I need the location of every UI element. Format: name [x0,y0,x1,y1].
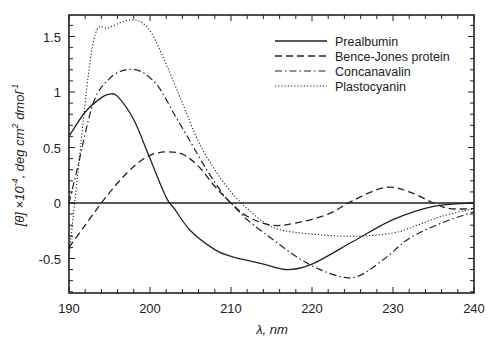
y-tick-label: 0 [54,196,61,211]
series-line-concanavalin [69,69,474,278]
tick-labels: 190200210220230240-0.500.511.5 [39,30,485,317]
x-axis-title: λ, nm [255,322,288,337]
y-axis-title: [θ] ×10-4, deg cm2 dmol-1 [10,84,27,228]
legend-label: Prealbumin [335,35,398,49]
legend-label: Concanavalin [335,65,411,79]
legend-label: Plastocyanin [335,80,406,94]
y-tick-label: 0.5 [43,141,61,156]
y-tick-label: 1.5 [43,30,61,45]
x-tick-label: 230 [382,301,404,316]
series-line-bence-jones-protein [69,152,474,248]
cd-spectra-chart: 190200210220230240-0.500.511.5 Prealbumi… [0,0,495,347]
y-tick-label: -0.5 [39,252,61,267]
legend: PrealbuminBence-Jones proteinConcanavali… [275,35,450,94]
x-tick-label: 200 [139,301,161,316]
x-tick-label: 210 [220,301,242,316]
legend-label: Bence-Jones protein [335,50,450,64]
y-tick-label: 1 [54,85,61,100]
x-tick-label: 190 [58,301,80,316]
x-tick-label: 220 [301,301,323,316]
x-tick-label: 240 [463,301,485,316]
series-line-prealbumin [69,94,474,270]
